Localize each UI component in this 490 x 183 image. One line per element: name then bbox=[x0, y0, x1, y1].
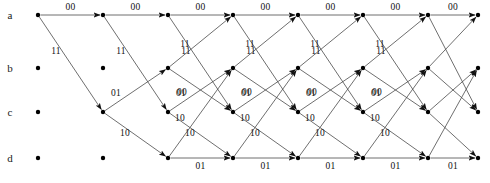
node-a-7 bbox=[476, 13, 480, 17]
edge-b-to-a bbox=[235, 17, 296, 67]
node-c-7 bbox=[476, 110, 480, 114]
edge-label-10: 10 bbox=[185, 129, 195, 139]
edge-label-10: 10 bbox=[250, 129, 260, 139]
edge-b-to-a bbox=[365, 17, 426, 67]
edge-label-01: 01 bbox=[391, 162, 401, 172]
node-c-4 bbox=[296, 110, 300, 114]
edge-label-11: 11 bbox=[375, 40, 385, 50]
node-placeholder-d-1 bbox=[101, 156, 105, 160]
node-b-5 bbox=[361, 66, 365, 70]
node-a-3 bbox=[231, 13, 235, 17]
edge-a-to-c bbox=[39, 17, 101, 109]
edge-label-01: 01 bbox=[261, 162, 271, 172]
edge-label-01: 01 bbox=[306, 89, 316, 99]
edge-label-10: 10 bbox=[370, 114, 380, 124]
node-c-1 bbox=[101, 110, 105, 114]
edge-b-to-a bbox=[300, 17, 361, 67]
edge-label-11: 11 bbox=[51, 47, 61, 57]
node-b-3 bbox=[231, 66, 235, 70]
state-label-b: b bbox=[7, 63, 13, 74]
node-d-7 bbox=[476, 156, 480, 160]
node-b-6 bbox=[426, 66, 430, 70]
node-placeholder-d-0 bbox=[36, 156, 40, 160]
edge-label-01: 01 bbox=[196, 162, 206, 172]
edge-label-01: 01 bbox=[241, 89, 251, 99]
node-a-0 bbox=[36, 13, 40, 17]
state-label-c: c bbox=[8, 107, 13, 118]
state-label-a: a bbox=[8, 10, 13, 21]
node-a-5 bbox=[361, 13, 365, 17]
edge-label-00: 00 bbox=[131, 3, 141, 13]
edge-label-01: 01 bbox=[448, 162, 458, 172]
edge-label-11: 11 bbox=[180, 40, 190, 50]
node-a-4 bbox=[296, 13, 300, 17]
edge-label-11: 11 bbox=[116, 47, 126, 57]
edge-label-00: 00 bbox=[196, 3, 206, 13]
trellis-diagram: abcd001100110110001111000110100100111100… bbox=[0, 0, 490, 183]
node-c-5 bbox=[361, 110, 365, 114]
edge-label-10: 10 bbox=[240, 114, 250, 124]
node-b-7 bbox=[476, 66, 480, 70]
edge-label-11: 11 bbox=[310, 40, 320, 50]
node-c-2 bbox=[166, 110, 170, 114]
node-a-1 bbox=[101, 13, 105, 17]
edge-label-10: 10 bbox=[380, 129, 390, 139]
edge-label-00: 00 bbox=[391, 3, 401, 13]
edge-label-00: 00 bbox=[261, 3, 271, 13]
node-d-5 bbox=[361, 156, 365, 160]
edge-label-10: 10 bbox=[175, 114, 185, 124]
node-d-3 bbox=[231, 156, 235, 160]
edge-label-01: 01 bbox=[326, 162, 336, 172]
node-a-6 bbox=[426, 13, 430, 17]
node-placeholder-b-0 bbox=[36, 66, 40, 70]
edge-a-to-c bbox=[429, 17, 476, 109]
edge-c-to-d bbox=[105, 113, 166, 156]
edge-label-10: 10 bbox=[305, 114, 315, 124]
edge-b-to-a bbox=[430, 17, 476, 66]
edge-label-00: 00 bbox=[448, 3, 458, 13]
state-label-d: d bbox=[7, 153, 13, 164]
edge-d-to-b bbox=[429, 71, 476, 156]
edge-label-01: 01 bbox=[176, 89, 186, 99]
node-c-3 bbox=[231, 110, 235, 114]
edge-label-11: 11 bbox=[245, 40, 255, 50]
edge-label-01: 01 bbox=[111, 89, 121, 99]
node-d-6 bbox=[426, 156, 430, 160]
edge-label-01: 01 bbox=[371, 89, 381, 99]
node-placeholder-c-0 bbox=[36, 110, 40, 114]
edge-label-00: 00 bbox=[66, 3, 76, 13]
edge-b-to-a bbox=[170, 17, 231, 67]
node-d-4 bbox=[296, 156, 300, 160]
edge-label-10: 10 bbox=[120, 129, 130, 139]
node-c-6 bbox=[426, 110, 430, 114]
node-b-2 bbox=[166, 66, 170, 70]
node-d-2 bbox=[166, 156, 170, 160]
node-placeholder-b-1 bbox=[101, 66, 105, 70]
edge-label-00: 00 bbox=[326, 3, 336, 13]
edge-c-to-d bbox=[430, 114, 476, 156]
node-a-2 bbox=[166, 13, 170, 17]
edge-label-10: 10 bbox=[315, 129, 325, 139]
node-b-4 bbox=[296, 66, 300, 70]
